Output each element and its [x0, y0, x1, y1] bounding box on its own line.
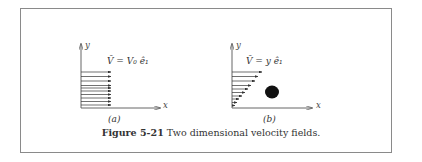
panel-a-axes: [81, 44, 160, 108]
panel-b-x-axis-label: x: [316, 100, 321, 110]
panel-b-y-axis-label: y: [236, 40, 241, 50]
panel-a-equation: V̄ = V₀ ê₁: [107, 56, 149, 66]
panel-b-label: (b): [263, 114, 276, 124]
panel-b-equation: V̄ = y ê₁: [246, 56, 283, 66]
caption-text: Two dimensional velocity fields.: [167, 127, 321, 138]
caption-label: Figure 5-21: [102, 127, 164, 138]
figure-caption: Figure 5-21 Two dimensional velocity fie…: [0, 127, 422, 138]
panel-a-x-axis-label: x: [163, 100, 168, 110]
panel-b-shear-arrows: [232, 72, 262, 106]
panel-a-label: (a): [108, 114, 120, 124]
panel-a-uniform-arrows: [81, 72, 111, 105]
panel-a-y-axis-label: y: [85, 40, 90, 50]
particle-dot: [265, 86, 279, 99]
